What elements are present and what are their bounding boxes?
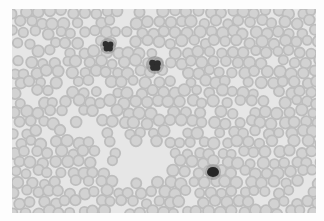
red-blood-cell [214, 67, 224, 77]
red-blood-cell [116, 76, 127, 87]
red-blood-cell [304, 15, 315, 26]
red-blood-cell [142, 35, 152, 45]
red-blood-cell [87, 205, 98, 213]
red-blood-cell [208, 137, 220, 149]
red-blood-cell [284, 186, 293, 195]
red-blood-cell [158, 207, 169, 213]
red-blood-cell [279, 196, 288, 205]
red-blood-cell [271, 108, 283, 120]
red-blood-cell [84, 176, 94, 186]
red-blood-cell [249, 147, 259, 157]
red-blood-cell [12, 26, 17, 35]
red-blood-cell [33, 187, 43, 197]
red-blood-cell [12, 166, 21, 175]
red-blood-cell [203, 206, 214, 213]
red-blood-cell [155, 196, 165, 206]
red-blood-cell [273, 47, 282, 56]
red-blood-cell [250, 204, 261, 213]
red-blood-cell [134, 208, 145, 213]
red-blood-cell [292, 18, 303, 29]
red-blood-cell [279, 16, 290, 27]
red-blood-cell [183, 68, 194, 79]
red-blood-cell [20, 208, 30, 213]
red-blood-cell [231, 135, 242, 146]
red-blood-cell [130, 54, 142, 66]
red-blood-cell [274, 66, 286, 78]
red-blood-cell [13, 56, 23, 66]
red-blood-cell [41, 65, 52, 76]
red-blood-cell [31, 26, 41, 36]
red-blood-cell [178, 84, 190, 96]
red-blood-cell [53, 185, 63, 195]
red-blood-cell [159, 26, 169, 36]
cell-layer [12, 9, 316, 213]
red-blood-cell [74, 77, 83, 86]
red-blood-cell [226, 186, 236, 196]
red-blood-cell [175, 138, 184, 147]
red-blood-cell [26, 57, 37, 68]
red-blood-cell [233, 57, 244, 68]
red-blood-cell [44, 9, 55, 16]
red-blood-cell [192, 85, 201, 94]
red-blood-cell [92, 87, 101, 96]
blood-smear-field [12, 9, 316, 213]
red-blood-cell [90, 26, 100, 36]
red-blood-cell [176, 35, 188, 47]
red-blood-cell [108, 156, 117, 165]
red-blood-cell [192, 46, 203, 57]
red-blood-cell [298, 68, 309, 79]
micrograph-frame [0, 0, 324, 221]
red-blood-cell [274, 86, 284, 96]
red-blood-cell [215, 106, 226, 117]
red-blood-cell [228, 109, 238, 119]
red-blood-cell [119, 57, 130, 68]
red-blood-cell [207, 95, 219, 107]
red-blood-cell [22, 185, 32, 195]
red-blood-cell [105, 137, 115, 147]
red-blood-cell [142, 97, 153, 108]
red-blood-cell [130, 135, 141, 146]
red-blood-cell [53, 65, 64, 76]
red-blood-cell [175, 114, 186, 125]
red-blood-cell [19, 28, 29, 38]
red-blood-cell [56, 168, 65, 177]
red-blood-cell [42, 168, 52, 178]
red-blood-cell [55, 125, 66, 136]
red-blood-cell [62, 156, 74, 168]
red-blood-cell [72, 38, 83, 49]
red-blood-cell [173, 196, 184, 207]
red-blood-cell [43, 29, 54, 40]
red-blood-cell [122, 27, 132, 37]
red-blood-cell [292, 95, 301, 104]
red-blood-cell [154, 114, 165, 125]
red-blood-cell [199, 177, 210, 188]
red-blood-cell [265, 118, 276, 129]
red-blood-cell [12, 88, 21, 99]
red-blood-cell [12, 208, 17, 213]
red-blood-cell [262, 66, 273, 77]
red-blood-cell [209, 117, 220, 128]
red-blood-cell [238, 47, 249, 58]
red-blood-cell [175, 155, 186, 166]
red-blood-cell [185, 138, 194, 147]
red-blood-cell [261, 47, 272, 58]
red-blood-cell [12, 129, 18, 139]
red-blood-cell [13, 38, 22, 47]
red-blood-cell [27, 16, 37, 26]
red-blood-cell [313, 36, 316, 47]
red-blood-cell [43, 86, 53, 96]
red-blood-cell [215, 207, 227, 213]
red-blood-cell [310, 25, 316, 35]
red-blood-cell [57, 27, 66, 36]
red-blood-cell [268, 176, 279, 187]
red-blood-cell [220, 36, 230, 46]
red-blood-cell [228, 87, 237, 96]
red-blood-cell [179, 166, 190, 177]
red-blood-cell [295, 205, 305, 213]
red-blood-cell [221, 56, 231, 66]
red-blood-cell [290, 58, 300, 68]
red-blood-cell [185, 15, 197, 27]
red-blood-cell [65, 208, 74, 213]
red-blood-cell [231, 35, 242, 46]
red-blood-cell [169, 209, 178, 213]
